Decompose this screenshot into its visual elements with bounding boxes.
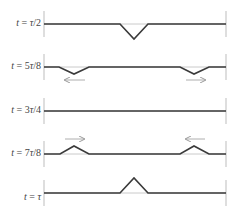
time-label: t = τ (1, 191, 41, 202)
time-label: t = 7τ/8 (1, 147, 41, 158)
panel-1 (44, 11, 226, 39)
string-wave (44, 67, 226, 74)
time-label: t = 5τ/8 (1, 60, 41, 71)
time-label: t = τ/2 (1, 17, 41, 28)
string-wave (44, 24, 226, 39)
panel-4 (44, 139, 226, 167)
string-wave (44, 178, 226, 193)
panel-3 (44, 98, 226, 124)
time-label: t = 3τ/4 (1, 104, 41, 115)
panel-2 (44, 54, 226, 80)
panel-5 (44, 178, 226, 206)
string-wave (44, 146, 226, 154)
